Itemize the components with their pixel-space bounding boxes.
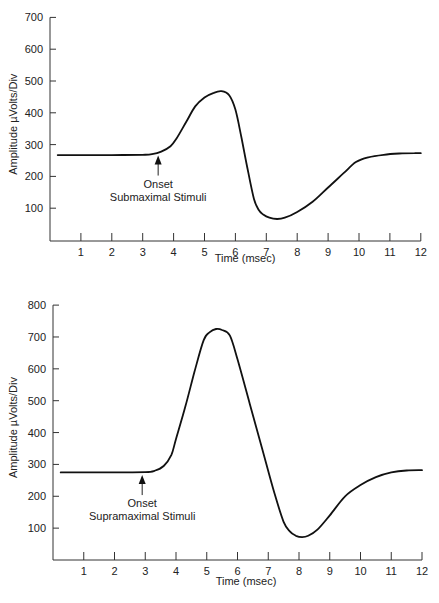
- x-tick-label: 12: [416, 565, 428, 577]
- x-tick-label: 4: [173, 565, 179, 577]
- x-tick-label: 12: [415, 246, 427, 258]
- chart-svg-top: 100200300400500600700123456789101112Time…: [0, 0, 439, 280]
- y-tick-label: 200: [25, 170, 43, 182]
- y-tick-label: 100: [28, 522, 46, 534]
- x-tick-label: 3: [142, 565, 148, 577]
- x-tick-label: 8: [294, 246, 300, 258]
- x-tick-label: 4: [171, 246, 177, 258]
- y-tick-label: 400: [25, 107, 43, 119]
- chart-svg-bottom: 100200300400500600700800123456789101112T…: [0, 288, 439, 603]
- x-tick-label: 1: [78, 246, 84, 258]
- onset-arrow-icon: [139, 475, 146, 484]
- y-tick-label: 600: [28, 363, 46, 375]
- y-axis-title: Amplitude µVolts/Div: [7, 377, 19, 479]
- y-tick-label: 100: [25, 202, 43, 214]
- onset-arrow-icon: [155, 156, 162, 165]
- x-tick-label: 5: [204, 565, 210, 577]
- chart-supramaximal: 100200300400500600700800123456789101112T…: [0, 288, 439, 603]
- stimulus-label: Submaximal Stimuli: [110, 191, 207, 203]
- y-tick-label: 500: [28, 395, 46, 407]
- x-axis-title: Time (msec): [216, 575, 277, 587]
- onset-label: Onset: [143, 178, 172, 190]
- x-tick-label: 9: [327, 565, 333, 577]
- x-axis-title: Time (msec): [215, 252, 276, 264]
- x-tick-label: 3: [140, 246, 146, 258]
- y-tick-label: 400: [28, 427, 46, 439]
- y-tick-label: 800: [28, 299, 46, 311]
- y-tick-label: 600: [25, 43, 43, 55]
- onset-label: Onset: [127, 497, 156, 509]
- y-tick-label: 700: [25, 11, 43, 23]
- y-tick-label: 500: [25, 75, 43, 87]
- y-tick-label: 300: [25, 139, 43, 151]
- x-tick-label: 11: [386, 565, 397, 577]
- x-tick-label: 2: [109, 246, 115, 258]
- y-tick-label: 200: [28, 490, 46, 502]
- x-tick-label: 11: [384, 246, 395, 258]
- stimulus-label: Supramaximal Stimuli: [89, 510, 195, 522]
- y-axis-title: Amplitude µVolts/Div: [7, 73, 19, 175]
- x-tick-label: 8: [296, 565, 302, 577]
- x-tick-label: 10: [353, 246, 365, 258]
- y-tick-label: 300: [28, 458, 46, 470]
- x-tick-label: 9: [325, 246, 331, 258]
- waveform-line: [61, 329, 422, 537]
- x-tick-label: 10: [354, 565, 366, 577]
- x-tick-label: 1: [81, 565, 87, 577]
- chart-submaximal: 100200300400500600700123456789101112Time…: [0, 0, 439, 280]
- x-tick-label: 2: [111, 565, 117, 577]
- x-tick-label: 5: [201, 246, 207, 258]
- y-tick-label: 700: [28, 331, 46, 343]
